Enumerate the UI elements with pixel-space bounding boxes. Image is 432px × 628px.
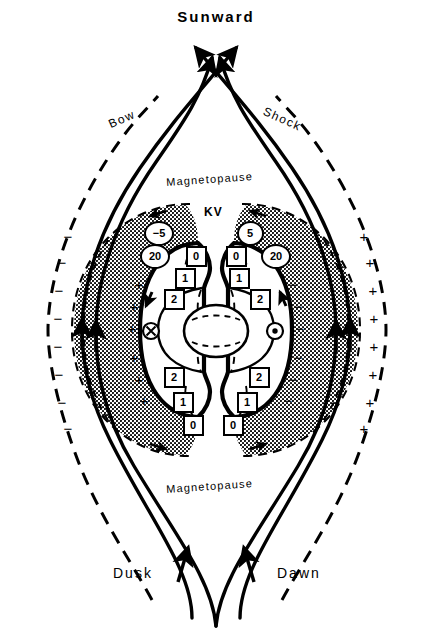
potential-marker-boxed: 2 xyxy=(249,367,270,388)
dawn-label: Dawn xyxy=(277,565,321,581)
field-symbol-out-of-page xyxy=(267,323,283,339)
potential-marker-boxed: 0 xyxy=(226,246,247,267)
svg-text:+: + xyxy=(130,349,139,366)
svg-text:+: + xyxy=(370,338,379,355)
potential-marker-boxed: 2 xyxy=(250,289,271,310)
svg-text:−: − xyxy=(289,276,298,293)
svg-text:−: − xyxy=(58,254,67,271)
svg-text:−: − xyxy=(64,228,73,245)
svg-text:+: + xyxy=(360,420,369,437)
dusk-label: Dusk xyxy=(113,565,153,581)
svg-text:−: − xyxy=(284,392,293,409)
svg-text:+: + xyxy=(366,394,375,411)
field-symbol-into-page xyxy=(143,323,159,339)
potential-marker-boxed: 2 xyxy=(164,367,185,388)
svg-text:−: − xyxy=(289,371,298,388)
out-of-page-dot xyxy=(272,328,277,333)
svg-text:−: − xyxy=(55,366,64,383)
svg-text:+: + xyxy=(369,282,378,299)
potential-marker-circled: 20 xyxy=(140,244,170,269)
potential-marker-boxed: 2 xyxy=(164,289,185,310)
svg-text:−: − xyxy=(296,320,305,337)
potential-marker-boxed: 1 xyxy=(175,268,196,289)
svg-text:+: + xyxy=(135,276,144,293)
svg-text:−: − xyxy=(54,310,63,327)
earth-disc xyxy=(184,305,248,357)
svg-text:+: + xyxy=(128,320,137,337)
svg-text:−: − xyxy=(55,282,64,299)
svg-text:−: − xyxy=(64,420,73,437)
svg-text:+: + xyxy=(369,366,378,383)
earth xyxy=(184,305,248,357)
svg-text:+: + xyxy=(135,371,144,388)
svg-text:−: − xyxy=(58,394,67,411)
potential-marker-boxed: 0 xyxy=(186,246,207,267)
svg-text:−: − xyxy=(294,298,303,315)
svg-text:+: + xyxy=(140,392,149,409)
potential-marker-boxed: 1 xyxy=(229,268,250,289)
magnetosphere-diagram: − − − − − − − − + + + + + + + + + + + + … xyxy=(0,0,432,628)
svg-text:+: + xyxy=(130,298,139,315)
potential-marker-boxed: 0 xyxy=(183,415,204,436)
svg-text:−: − xyxy=(54,338,63,355)
potential-marker-boxed: 0 xyxy=(223,415,244,436)
svg-text:+: + xyxy=(370,310,379,327)
svg-text:−: − xyxy=(294,349,303,366)
svg-text:+: + xyxy=(360,228,369,245)
potential-marker-circled: 20 xyxy=(261,244,291,269)
page-title: Sunward xyxy=(0,8,432,25)
potential-marker-circled: −5 xyxy=(144,221,174,246)
kv-label: KV xyxy=(204,205,223,219)
potential-marker-circled: 5 xyxy=(237,221,264,246)
potential-marker-boxed: 1 xyxy=(237,392,258,413)
svg-text:+: + xyxy=(366,254,375,271)
potential-marker-boxed: 1 xyxy=(173,392,194,413)
